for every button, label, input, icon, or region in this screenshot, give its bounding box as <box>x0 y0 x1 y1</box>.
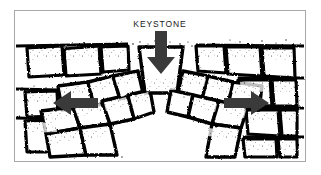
arch-diagram: KEYSTONE <box>0 0 321 175</box>
keystone-label: KEYSTONE <box>133 19 186 29</box>
figure-root: KEYSTONE <box>0 0 321 175</box>
